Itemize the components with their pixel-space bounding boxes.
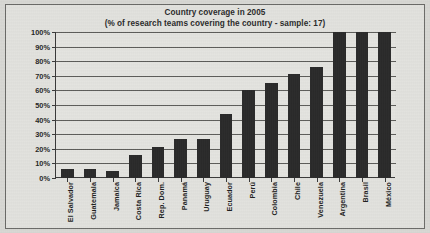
y-axis-tick-label: 0% [39, 174, 50, 183]
x-axis-labels: El SalvadorGuatemalaJamaicaCosta RicaRep… [55, 180, 395, 232]
x-axis-tick-label: Ecuador [225, 182, 234, 211]
y-axis-tick-label: 50% [35, 101, 50, 110]
x-label-slot: Colombia [259, 180, 282, 232]
bar [220, 114, 233, 178]
bar [242, 90, 255, 178]
x-axis-tick-label: Panamá [180, 182, 189, 210]
x-label-slot: Chile [282, 180, 305, 232]
bar-slot [260, 32, 283, 178]
bar-slot [305, 32, 328, 178]
y-axis-tick-label: 100% [31, 28, 50, 37]
y-axis-tick-label: 60% [35, 86, 50, 95]
x-axis-tick-label: Costa Rica [134, 182, 143, 220]
bar-slot [283, 32, 306, 178]
x-label-slot: Jamaica [100, 180, 123, 232]
x-axis-tick-label: Venezuela [316, 182, 325, 218]
x-axis-tick-label: Colombia [270, 182, 279, 216]
x-label-slot: Brasil [350, 180, 373, 232]
x-axis-tick-label: Brasil [361, 182, 370, 203]
chart-title: Country coverage in 2005 (% of research … [5, 7, 425, 29]
bar-slot [351, 32, 374, 178]
y-axis-tick-label: 40% [35, 115, 50, 124]
x-label-slot: Guatemala [78, 180, 101, 232]
bar-slot [169, 32, 192, 178]
bar [84, 169, 97, 178]
bar [129, 155, 142, 178]
chart-figure: Country coverage in 2005 (% of research … [0, 0, 430, 233]
bar-slot [237, 32, 260, 178]
bar-slot [101, 32, 124, 178]
x-label-slot: El Salvador [55, 180, 78, 232]
x-axis-tick-label: Perú [248, 182, 257, 198]
y-axis-tick-label: 90% [35, 42, 50, 51]
y-axis-tick-label: 10% [35, 159, 50, 168]
x-label-slot: Argentina [327, 180, 350, 232]
x-label-slot: Rep. Dom. [146, 180, 169, 232]
bar [310, 67, 323, 178]
x-axis-tick-label: Argentina [338, 182, 347, 216]
bar-slot [215, 32, 238, 178]
x-axis-tick-label: Rep. Dom. [157, 182, 166, 218]
bar-slot [56, 32, 79, 178]
x-label-slot: Panamá [168, 180, 191, 232]
y-axis-tick-label: 20% [35, 144, 50, 153]
x-axis-tick-label: México [384, 182, 393, 207]
y-axis-tick-label: 70% [35, 71, 50, 80]
x-label-slot: México [372, 180, 395, 232]
x-label-slot: Ecuador [214, 180, 237, 232]
bar [378, 32, 391, 178]
x-label-slot: Costa Rica [123, 180, 146, 232]
bar [265, 83, 278, 178]
bar-slot [373, 32, 396, 178]
x-axis-tick-label: Uruguay [202, 182, 211, 212]
plot-area: 0%10%20%30%40%50%60%70%80%90%100% [55, 32, 395, 178]
bar [61, 169, 74, 178]
bar [174, 139, 187, 178]
bar-slot [328, 32, 351, 178]
bar-slot [79, 32, 102, 178]
x-axis-tick-label: Chile [293, 182, 302, 200]
x-axis-tick-label: Guatemala [89, 182, 98, 220]
x-label-slot: Uruguay [191, 180, 214, 232]
bar [356, 32, 369, 178]
x-axis-tick-label: Jamaica [112, 182, 121, 211]
x-axis-tick-label: El Salvador [66, 182, 75, 222]
title-line-1: Country coverage in 2005 [5, 7, 425, 18]
bar-slot [192, 32, 215, 178]
bar [333, 32, 346, 178]
bar [106, 171, 119, 178]
bar [288, 74, 301, 178]
y-axis-tick [52, 178, 56, 179]
bar-slot [124, 32, 147, 178]
x-label-slot: Perú [236, 180, 259, 232]
y-axis-tick-label: 80% [35, 57, 50, 66]
x-label-slot: Venezuela [304, 180, 327, 232]
bar-series [56, 32, 396, 178]
y-axis-tick-label: 30% [35, 130, 50, 139]
bar [197, 139, 210, 178]
bar [152, 147, 165, 178]
bar-slot [147, 32, 170, 178]
title-line-2: (% of research teams covering the countr… [5, 18, 425, 29]
